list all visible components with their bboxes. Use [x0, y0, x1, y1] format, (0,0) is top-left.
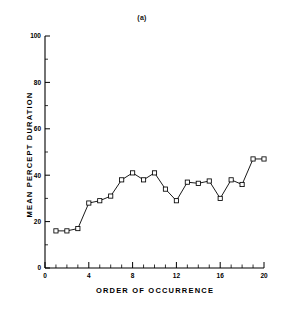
y-tick-label: 0	[37, 264, 41, 271]
data-point-marker	[120, 178, 124, 182]
data-point-marker	[65, 229, 69, 233]
x-tick-label: 8	[131, 272, 135, 279]
data-point-marker	[141, 178, 145, 182]
data-point-marker	[76, 226, 80, 230]
x-tick-label: 12	[173, 272, 181, 279]
figure-panel: (a) MEAN PERCEPT DURATION ORDER OF OCCUR…	[0, 0, 284, 315]
data-point-marker	[251, 157, 255, 161]
x-tick-label: 0	[43, 272, 47, 279]
data-point-marker	[262, 157, 266, 161]
data-point-marker	[240, 182, 244, 186]
y-axis: 020406080100	[30, 32, 50, 271]
x-tick-label: 4	[87, 272, 91, 279]
y-tick-label: 80	[34, 79, 42, 86]
y-axis-tick-labels: 020406080100	[30, 32, 41, 271]
data-point-marker	[131, 171, 135, 175]
data-point-marker	[174, 199, 178, 203]
data-point-marker	[229, 178, 233, 182]
data-point-marker	[218, 196, 222, 200]
data-point-marker	[98, 199, 102, 203]
y-tick-label: 60	[34, 125, 42, 132]
x-tick-label: 20	[260, 272, 268, 279]
data-point-marker	[163, 187, 167, 191]
data-point-marker	[152, 171, 156, 175]
line-chart-svg: 020406080100 048121620	[0, 0, 284, 315]
y-tick-label: 20	[34, 218, 42, 225]
x-axis-tick-labels: 048121620	[43, 272, 268, 279]
x-tick-label: 16	[217, 272, 225, 279]
data-point-marker	[185, 180, 189, 184]
data-point-marker	[196, 181, 200, 185]
y-tick-label: 40	[34, 172, 42, 179]
plot-area: MEAN PERCEPT DURATION ORDER OF OCCURRENC…	[0, 0, 284, 315]
data-point-marker	[87, 201, 91, 205]
data-point-marker	[54, 229, 58, 233]
data-point-marker	[109, 194, 113, 198]
x-axis: 048121620	[43, 262, 268, 279]
data-point-marker	[207, 179, 211, 183]
data-series-line	[56, 159, 264, 231]
data-series-markers	[54, 157, 266, 233]
y-tick-label: 100	[30, 32, 41, 39]
